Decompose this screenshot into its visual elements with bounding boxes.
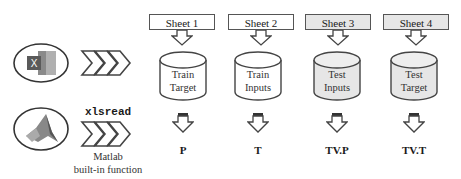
sheet-box: Sheet 3: [305, 14, 371, 30]
sheet-box: Sheet 2: [228, 14, 294, 30]
function-caption: Matlab built-in function: [66, 150, 150, 176]
sheet-box: Sheet 4: [383, 14, 449, 30]
excel-icon: X: [12, 42, 70, 84]
down-arrow-icon: [172, 113, 194, 133]
cylinder-label: Test Target: [384, 68, 444, 94]
down-arrow-icon: [326, 113, 348, 133]
down-arrow-icon: [327, 30, 349, 46]
triple-chevron-icon: [80, 120, 136, 148]
excel-source: X: [12, 42, 70, 84]
down-arrow-icon: [247, 113, 269, 133]
matlab-icon: [12, 106, 70, 152]
triple-chevron-icon: [80, 49, 136, 77]
down-arrow-icon: [171, 30, 193, 46]
down-arrow-icon: [405, 30, 427, 46]
caption-line-2: built-in function: [66, 163, 150, 176]
function-label: xlsread: [78, 106, 138, 118]
caption-line-1: Matlab: [66, 150, 150, 163]
cylinder-label: Train Inputs: [228, 68, 288, 94]
variable-label: P: [153, 144, 213, 156]
column-sheet-4: Sheet 4 Test Target TV.T: [383, 0, 459, 179]
cylinder-label: Train Target: [153, 68, 213, 94]
column-sheet-2: Sheet 2 Train Inputs T: [228, 0, 304, 179]
down-arrow-icon: [403, 113, 425, 133]
chevron-arrows-bottom: [80, 120, 136, 152]
cylinder-label: Test Inputs: [307, 68, 367, 94]
column-sheet-1: Sheet 1 Train Target P: [149, 0, 225, 179]
variable-label: TV.T: [384, 144, 444, 156]
variable-label: TV.P: [307, 144, 367, 156]
chevron-arrows-top: [80, 49, 136, 81]
column-sheet-3: Sheet 3 Test Inputs TV.P: [305, 0, 381, 179]
down-arrow-icon: [250, 30, 272, 46]
variable-label: T: [228, 144, 288, 156]
matlab-source: [12, 106, 70, 152]
svg-text:X: X: [31, 58, 38, 69]
sheet-box: Sheet 1: [149, 14, 215, 30]
